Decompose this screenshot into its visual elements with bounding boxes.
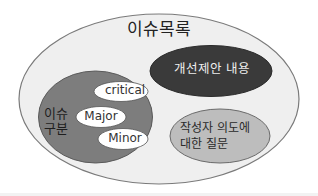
- issue-list-diagram: 이슈목록 개선제안 내용 작성자 의도에 대한 질문 이슈 구분 critica…: [0, 0, 318, 196]
- tag-minor: Minor: [100, 132, 150, 145]
- question-line-1: 작성자 의도에: [180, 121, 262, 137]
- question-line-2: 대한 질문: [180, 137, 262, 153]
- improvement-suggestion-label: 개선제안 내용: [158, 62, 266, 76]
- category-line-1: 이슈: [44, 107, 70, 122]
- tag-major: Major: [74, 110, 128, 123]
- issue-category-label: 이슈 구분: [44, 107, 70, 137]
- bottom-divider: [0, 193, 318, 196]
- diagram-title: 이슈목록: [109, 20, 209, 39]
- tag-critical: critical: [95, 84, 155, 97]
- category-line-2: 구분: [44, 122, 70, 137]
- author-intent-question-label: 작성자 의도에 대한 질문: [180, 121, 262, 152]
